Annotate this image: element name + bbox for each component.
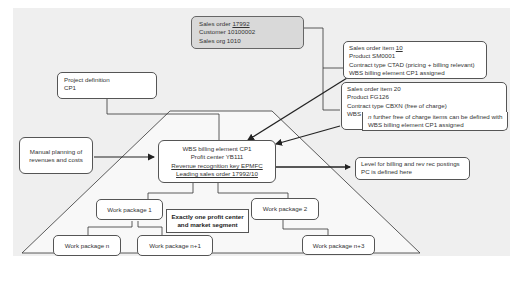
level-note-box: Level for billing and rev rec postings P… (355, 157, 470, 180)
project-definition-value: CP1 (64, 84, 150, 92)
sales-order-link[interactable]: 17992 (232, 20, 249, 27)
level-note-line1: Level for billing and rev rec postings (361, 160, 464, 168)
sales-order-item-10-box: Sales order item 10 Product SM0001 Contr… (343, 41, 487, 79)
work-package-n-label: Work package n (56, 242, 118, 250)
project-definition-box: Project definition CP1 (57, 72, 157, 99)
item-10-contract-type: Contract type CTAD (pricing + billing re… (349, 61, 481, 69)
free-of-charge-note-box: n further free of charge items can be de… (362, 112, 508, 131)
work-package-n3-box: Work package n+3 (302, 235, 375, 255)
sales-order-box: Sales order 17992 Customer 10100002 Sale… (191, 16, 304, 49)
item-10-link[interactable]: 10 (396, 44, 403, 51)
item-20-product: Product FG126 (347, 93, 501, 101)
work-package-n3-label: Work package n+3 (305, 242, 372, 250)
profit-center-text: Profit center YB111 (162, 153, 272, 161)
wbs-billing-element-box: WBS billing element CP1 Profit center YB… (158, 140, 276, 183)
free-of-charge-note-1: further free of charge items can be defi… (371, 113, 502, 120)
work-package-2-box: Work package 2 (251, 198, 319, 220)
work-package-1-label: Work package 1 (99, 206, 160, 214)
item-20-label: Sales order item 20 (347, 85, 501, 93)
work-package-n-box: Work package n (53, 235, 121, 256)
work-package-1-box: Work package 1 (96, 199, 163, 220)
customer-text: Customer 10100002 (199, 28, 296, 36)
level-note-line2: PC is defined here (361, 168, 464, 176)
work-package-n1-label: Work package n+1 (140, 242, 210, 250)
manual-planning-box: Manual planning of revenues and costs (19, 137, 93, 174)
free-of-charge-note-2: WBS billing element CP1 assigned (368, 121, 502, 129)
leading-sales-order-link[interactable]: Leading sales order 17992/10 (162, 170, 272, 178)
item-20-contract-type: Contract type CBXN (free of charge) (347, 102, 501, 110)
work-package-n1-box: Work package n+1 (137, 235, 213, 256)
profit-center-callout: Exactly one profit center and market seg… (166, 209, 249, 233)
item-10-label: Sales order item (349, 44, 396, 51)
callout-line2: and market segment (169, 221, 246, 229)
item-10-wbs: WBS billing element CP1 assigned (349, 69, 481, 77)
item-10-product: Product SM0001 (349, 52, 481, 60)
revenue-recognition-key-link[interactable]: Revenue recognition key EPMFC (162, 162, 272, 170)
manual-planning-line1: Manual planning of (22, 148, 90, 156)
sales-order-label: Sales order (199, 20, 232, 27)
callout-line1: Exactly one profit center (169, 213, 246, 221)
sales-org-text: Sales org 1010 (199, 37, 296, 45)
wbs-element-title: WBS billing element CP1 (162, 145, 272, 153)
project-definition-label: Project definition (64, 76, 150, 84)
manual-planning-line2: revenues and costs (22, 156, 90, 164)
work-package-2-label: Work package 2 (254, 205, 316, 213)
